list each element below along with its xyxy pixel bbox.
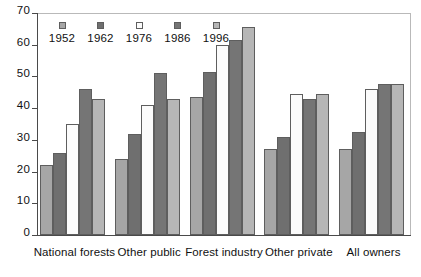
bar bbox=[290, 94, 303, 235]
legend: 19521962197619861996 bbox=[44, 22, 234, 52]
x-axis-category-label: Forest industry bbox=[181, 246, 268, 259]
bar bbox=[154, 73, 167, 235]
y-axis-tick-label: 0 bbox=[23, 227, 30, 238]
legend-swatch-icon bbox=[97, 22, 104, 29]
bar bbox=[79, 89, 92, 235]
bar bbox=[167, 99, 180, 235]
legend-swatch-icon bbox=[174, 22, 181, 29]
bar bbox=[128, 134, 141, 235]
bar bbox=[352, 132, 365, 235]
bar bbox=[53, 153, 66, 235]
bar bbox=[141, 105, 154, 235]
legend-item[interactable]: 1962 bbox=[83, 22, 119, 44]
bar-group bbox=[264, 13, 329, 235]
bar bbox=[316, 94, 329, 235]
x-axis-category-label: All owners bbox=[330, 246, 417, 259]
legend-label: 1962 bbox=[83, 32, 119, 44]
legend-label: 1976 bbox=[121, 32, 157, 44]
bar bbox=[303, 99, 316, 235]
y-axis-tick-mark bbox=[32, 235, 37, 236]
y-axis-tick-label: 30 bbox=[17, 132, 30, 143]
y-axis-tick-label: 50 bbox=[17, 68, 30, 79]
legend-label: 1952 bbox=[44, 32, 80, 44]
bar bbox=[190, 97, 203, 235]
legend-item[interactable]: 1996 bbox=[198, 22, 234, 44]
bar bbox=[40, 165, 53, 235]
legend-swatch-icon bbox=[136, 22, 143, 29]
bar bbox=[339, 149, 352, 235]
y-axis-tick-label: 60 bbox=[17, 37, 30, 48]
bar bbox=[365, 89, 378, 235]
bar bbox=[378, 84, 391, 235]
legend-item[interactable]: 1976 bbox=[121, 22, 157, 44]
y-axis-tick-label: 40 bbox=[17, 100, 30, 111]
bar bbox=[242, 27, 255, 235]
x-axis-category-label: National forests bbox=[31, 246, 118, 259]
bar bbox=[264, 149, 277, 235]
legend-item[interactable]: 1952 bbox=[44, 22, 80, 44]
x-axis-category-label: Other private bbox=[255, 246, 342, 259]
legend-label: 1986 bbox=[160, 32, 196, 44]
x-axis-category-label: Other public bbox=[106, 246, 193, 259]
bar bbox=[203, 72, 216, 235]
bar bbox=[66, 124, 79, 235]
y-axis-tick-label: 20 bbox=[17, 164, 30, 175]
bar bbox=[391, 84, 404, 235]
y-axis-tick-label: 10 bbox=[17, 195, 30, 206]
bar bbox=[115, 159, 128, 235]
legend-swatch-icon bbox=[213, 22, 220, 29]
bar bbox=[92, 99, 105, 235]
legend-item[interactable]: 1986 bbox=[160, 22, 196, 44]
y-axis-tick-label: 70 bbox=[17, 5, 30, 16]
bar-chart: 010203040506070 National forestsOther pu… bbox=[0, 0, 421, 277]
bar bbox=[216, 45, 229, 235]
legend-swatch-icon bbox=[59, 22, 66, 29]
x-axis-line bbox=[37, 235, 411, 236]
bar bbox=[229, 40, 242, 235]
bar-group bbox=[339, 13, 404, 235]
bar bbox=[277, 137, 290, 235]
legend-label: 1996 bbox=[198, 32, 234, 44]
